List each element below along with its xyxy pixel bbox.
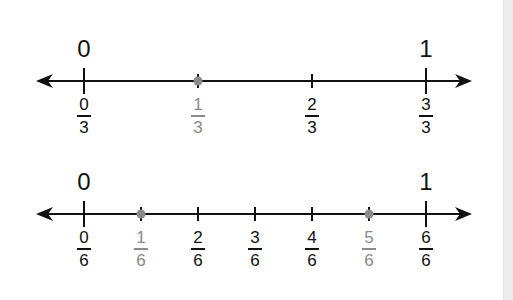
fraction-bar	[134, 248, 148, 250]
denominator: 6	[414, 252, 438, 269]
whole-label-one: 1	[414, 170, 438, 194]
side-scroll-strip	[503, 0, 513, 300]
denominator: 6	[72, 252, 96, 269]
fraction-label-3-3: 33	[414, 96, 438, 136]
numerator: 2	[186, 229, 210, 246]
whole-label-one: 1	[414, 37, 438, 61]
denominator: 6	[357, 252, 381, 269]
fraction-bar	[419, 115, 433, 117]
denominator: 6	[129, 252, 153, 269]
numerator: 3	[414, 96, 438, 113]
highlight-point	[137, 210, 146, 219]
denominator: 3	[186, 119, 210, 136]
highlight-point	[194, 77, 203, 86]
highlight-point	[365, 210, 374, 219]
fraction-label-1-6: 16	[129, 229, 153, 269]
numerator: 4	[300, 229, 324, 246]
numerator: 2	[300, 96, 324, 113]
numerator: 1	[129, 229, 153, 246]
numerator: 0	[72, 96, 96, 113]
fraction-bar	[77, 248, 91, 250]
fraction-label-2-6: 26	[186, 229, 210, 269]
denominator: 3	[300, 119, 324, 136]
fraction-bar	[248, 248, 262, 250]
whole-label-zero: 0	[72, 170, 96, 194]
fraction-label-0-3: 03	[72, 96, 96, 136]
fraction-bar	[419, 248, 433, 250]
denominator: 6	[243, 252, 267, 269]
denominator: 6	[300, 252, 324, 269]
fraction-label-5-6: 56	[357, 229, 381, 269]
whole-label-zero: 0	[72, 37, 96, 61]
numerator: 6	[414, 229, 438, 246]
numerator: 1	[186, 96, 210, 113]
denominator: 3	[72, 119, 96, 136]
fraction-label-4-6: 46	[300, 229, 324, 269]
fraction-label-1-3: 13	[186, 96, 210, 136]
fraction-bar	[305, 248, 319, 250]
fraction-bar	[191, 248, 205, 250]
fraction-bar	[77, 115, 91, 117]
fraction-bar	[305, 115, 319, 117]
fraction-bar	[362, 248, 376, 250]
numerator: 5	[357, 229, 381, 246]
fraction-label-6-6: 66	[414, 229, 438, 269]
numerator: 0	[72, 229, 96, 246]
number-line-sixths	[36, 201, 472, 227]
number-line-thirds	[36, 68, 472, 94]
denominator: 3	[414, 119, 438, 136]
denominator: 6	[186, 252, 210, 269]
fraction-bar	[191, 115, 205, 117]
fraction-label-2-3: 23	[300, 96, 324, 136]
numerator: 3	[243, 229, 267, 246]
fraction-label-3-6: 36	[243, 229, 267, 269]
fraction-label-0-6: 06	[72, 229, 96, 269]
